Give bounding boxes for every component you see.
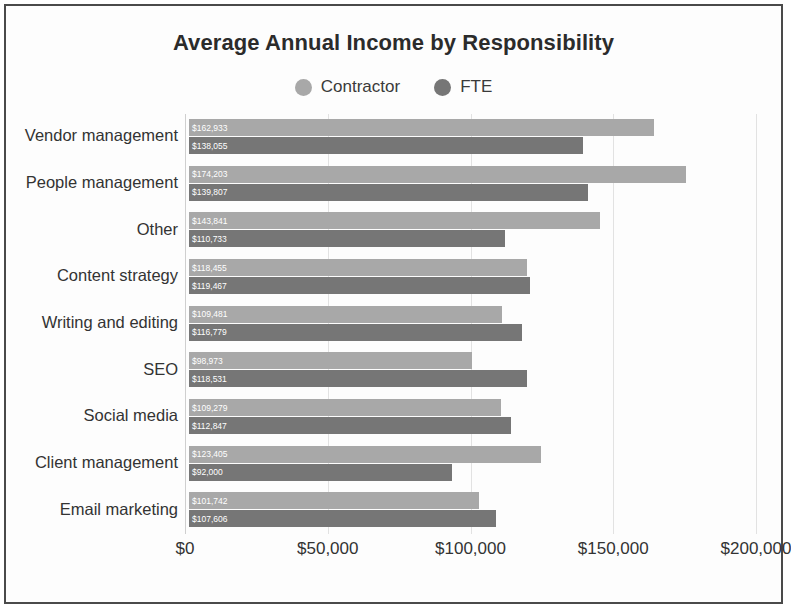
bar-fill: $118,455 <box>189 259 527 276</box>
x-axis-tick: $150,000 <box>578 539 649 559</box>
chart-bar[interactable]: $118,455 <box>189 259 527 276</box>
y-axis-label: SEO <box>6 360 178 379</box>
chart-bar[interactable]: $92,000 <box>189 464 452 481</box>
bar-value-label: $118,455 <box>192 263 227 272</box>
bar-fill: $118,531 <box>189 370 527 387</box>
chart-bar-group: $101,742$107,606 <box>185 487 756 534</box>
chart-bar-group: $98,973$118,531 <box>185 347 756 394</box>
chart-bar[interactable]: $139,807 <box>189 184 588 201</box>
chart-bar[interactable]: $110,733 <box>189 230 505 247</box>
y-axis-label: Writing and editing <box>6 313 178 332</box>
bar-fill: $162,933 <box>189 119 654 136</box>
bar-fill: $119,467 <box>189 277 530 294</box>
y-axis-label: Client management <box>6 453 178 472</box>
bar-value-label: $118,531 <box>192 375 227 384</box>
bar-fill: $110,733 <box>189 230 505 247</box>
chart-bar-group: $109,279$112,847 <box>185 394 756 441</box>
bar-value-label: $139,807 <box>192 188 227 197</box>
legend-label-contractor: Contractor <box>321 77 400 97</box>
chart-bar[interactable]: $162,933 <box>189 119 654 136</box>
legend-item-contractor[interactable]: Contractor <box>295 77 400 97</box>
y-axis-label: Social media <box>6 406 178 425</box>
bar-value-label: $143,841 <box>192 217 227 226</box>
plot-area: $162,933$138,055$174,203$139,807$143,841… <box>185 114 756 534</box>
bar-fill: $107,606 <box>189 510 496 527</box>
bar-value-label: $123,405 <box>192 450 227 459</box>
bar-value-label: $109,279 <box>192 403 227 412</box>
chart-bar[interactable]: $123,405 <box>189 446 541 463</box>
bar-fill: $139,807 <box>189 184 588 201</box>
y-axis-category-labels: Vendor managementPeople managementOtherC… <box>6 114 178 534</box>
legend-swatch-fte <box>434 79 451 96</box>
bar-value-label: $107,606 <box>192 515 227 524</box>
bar-value-label: $112,847 <box>192 421 227 430</box>
chart-bar[interactable]: $143,841 <box>189 212 600 229</box>
x-axis-tick: $200,000 <box>721 539 791 559</box>
y-axis-label: Content strategy <box>6 266 178 285</box>
chart-bar-group: $174,203$139,807 <box>185 161 756 208</box>
chart-bar-group: $143,841$110,733 <box>185 207 756 254</box>
bar-fill: $112,847 <box>189 417 511 434</box>
bar-value-label: $174,203 <box>192 170 227 179</box>
chart-bar[interactable]: $119,467 <box>189 277 530 294</box>
bar-value-label: $116,779 <box>192 328 227 337</box>
chart-bar[interactable]: $109,481 <box>189 306 502 323</box>
x-axis-tick: $100,000 <box>435 539 506 559</box>
chart-title: Average Annual Income by Responsibility <box>6 30 781 56</box>
chart-bar-group: $109,481$116,779 <box>185 301 756 348</box>
chart-bar[interactable]: $138,055 <box>189 137 583 154</box>
chart-bar[interactable]: $109,279 <box>189 399 501 416</box>
legend-label-fte: FTE <box>460 77 492 97</box>
chart-frame: Average Annual Income by Responsibility … <box>4 4 783 604</box>
bar-value-label: $101,742 <box>192 497 227 506</box>
bar-value-label: $92,000 <box>192 468 223 477</box>
chart-bar[interactable]: $116,779 <box>189 324 522 341</box>
y-axis-label: Email marketing <box>6 500 178 519</box>
chart-legend: Contractor FTE <box>6 77 781 97</box>
bar-value-label: $98,973 <box>192 357 223 366</box>
x-axis-tick: $0 <box>176 539 195 559</box>
bar-fill: $123,405 <box>189 446 541 463</box>
chart-bar-group: $162,933$138,055 <box>185 114 756 161</box>
bar-value-label: $119,467 <box>192 281 227 290</box>
chart-bar[interactable]: $107,606 <box>189 510 496 527</box>
gridline <box>756 114 757 534</box>
bar-value-label: $110,733 <box>192 235 227 244</box>
y-axis-label: People management <box>6 173 178 192</box>
bar-value-label: $109,481 <box>192 310 227 319</box>
chart-bar[interactable]: $98,973 <box>189 352 472 369</box>
bar-fill: $101,742 <box>189 492 479 509</box>
bar-fill: $138,055 <box>189 137 583 154</box>
bar-fill: $116,779 <box>189 324 522 341</box>
legend-item-fte[interactable]: FTE <box>434 77 492 97</box>
x-axis-tick-labels: $0$50,000$100,000$150,000$200,000 <box>185 539 756 565</box>
x-axis-tick: $50,000 <box>297 539 358 559</box>
legend-swatch-contractor <box>295 79 312 96</box>
bar-fill: $98,973 <box>189 352 472 369</box>
bar-fill: $109,279 <box>189 399 501 416</box>
chart-bar[interactable]: $112,847 <box>189 417 511 434</box>
chart-bar[interactable]: $101,742 <box>189 492 479 509</box>
chart-bar[interactable]: $118,531 <box>189 370 527 387</box>
y-axis-label: Other <box>6 220 178 239</box>
bar-fill: $143,841 <box>189 212 600 229</box>
chart-bar[interactable]: $174,203 <box>189 166 686 183</box>
bar-value-label: $138,055 <box>192 141 227 150</box>
y-axis-label: Vendor management <box>6 126 178 145</box>
bar-fill: $174,203 <box>189 166 686 183</box>
bar-fill: $109,481 <box>189 306 502 323</box>
chart-bar-group: $118,455$119,467 <box>185 254 756 301</box>
bar-fill: $92,000 <box>189 464 452 481</box>
bar-value-label: $162,933 <box>192 123 227 132</box>
chart-bar-group: $123,405$92,000 <box>185 441 756 488</box>
